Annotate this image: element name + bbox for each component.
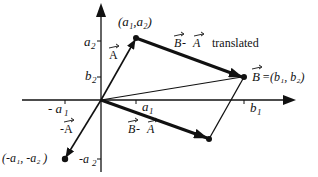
svg-text:A: A [192, 36, 201, 50]
svg-text:- a: - a [48, 101, 63, 116]
svg-text:-a: -a [79, 152, 89, 166]
label-vector-b: B =(b₁, b₂) [252, 65, 304, 84]
svg-text:1: 1 [257, 107, 262, 117]
label-b-minus-a: B - A [128, 118, 158, 136]
label-point-neg-a: (-a₁, -a₂ ) [2, 151, 47, 165]
svg-text:-: - [182, 36, 186, 50]
connector-b-to-diff [209, 77, 244, 139]
tick-label-a2: a 2 [84, 34, 96, 51]
tick-label-b2: b 2 [85, 68, 97, 85]
svg-text:-: - [136, 122, 140, 136]
svg-text:b: b [250, 100, 257, 115]
y-axis-arrow-icon [96, 3, 106, 17]
point-b [241, 74, 247, 80]
svg-text:a: a [142, 99, 149, 114]
tick-label-a1: a 1 [142, 99, 154, 116]
svg-text:2: 2 [92, 75, 97, 85]
vector-b [101, 77, 242, 100]
point-neg-a [62, 156, 68, 162]
svg-text:b: b [85, 68, 92, 83]
svg-text:translated: translated [212, 36, 259, 50]
svg-text:B: B [174, 36, 182, 50]
label-vector-neg-a: -A [60, 118, 74, 136]
tick-label-b1: b 1 [250, 100, 262, 117]
svg-text:=(b₁, b₂): =(b₁, b₂) [262, 70, 304, 84]
label-point-a: (a₁,a₂) [118, 14, 152, 29]
label-translated: B - A translated [174, 32, 259, 50]
svg-text:B: B [128, 122, 136, 136]
x-axis-arrow-icon [283, 95, 296, 105]
point-b-minus-a [206, 136, 212, 142]
label-vector-a: A [109, 44, 119, 62]
svg-text:B: B [252, 69, 260, 84]
svg-text:-A: -A [60, 122, 73, 136]
svg-text:1: 1 [149, 106, 154, 116]
svg-text:A: A [109, 48, 118, 62]
vector-diagram: (a₁,a₂) (-a₁, -a₂ ) A -A B =(b₁, b₂) B -… [0, 0, 318, 177]
point-a [133, 35, 139, 41]
tick-label-neg-a2: -a 2 [79, 152, 97, 168]
svg-text:1: 1 [64, 108, 69, 118]
vector-a [101, 40, 135, 100]
svg-text:2: 2 [91, 41, 96, 51]
svg-text:2: 2 [92, 158, 97, 168]
svg-text:A: A [146, 122, 155, 136]
svg-text:a: a [84, 34, 91, 49]
